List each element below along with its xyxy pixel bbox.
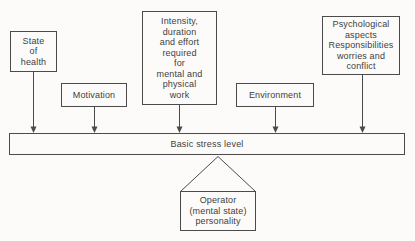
basic-stress-level-bar: Basic stress level bbox=[9, 133, 405, 155]
box-psychological-label: Psychological aspects Responsibilities w… bbox=[329, 19, 394, 72]
arrow-environment bbox=[273, 107, 279, 133]
arrow-state-of-health bbox=[31, 72, 37, 133]
box-environment-label: Environment bbox=[249, 90, 301, 101]
arrow-psychological bbox=[360, 75, 366, 133]
box-intensity-duration-effort: Intensity, duration and effort required … bbox=[142, 11, 217, 105]
box-operator-personality: Operator (mental state) personality bbox=[180, 191, 256, 231]
box-motivation: Motivation bbox=[61, 83, 127, 107]
box-motivation-label: Motivation bbox=[73, 90, 116, 101]
box-state-of-health: State of health bbox=[10, 31, 57, 72]
box-psychological-aspects: Psychological aspects Responsibilities w… bbox=[322, 16, 400, 75]
arrow-motivation bbox=[92, 107, 98, 133]
box-state-of-health-label: State of health bbox=[21, 36, 46, 68]
arrow-intensity bbox=[177, 105, 183, 133]
box-operator-label: Operator (mental state) personality bbox=[189, 195, 246, 227]
stress-factors-diagram: State of health Motivation Intensity, du… bbox=[0, 0, 415, 241]
box-intensity-label: Intensity, duration and effort required … bbox=[156, 16, 202, 100]
operator-roof-outline bbox=[181, 157, 256, 192]
box-environment: Environment bbox=[236, 83, 314, 107]
basic-stress-level-label: Basic stress level bbox=[170, 139, 243, 149]
